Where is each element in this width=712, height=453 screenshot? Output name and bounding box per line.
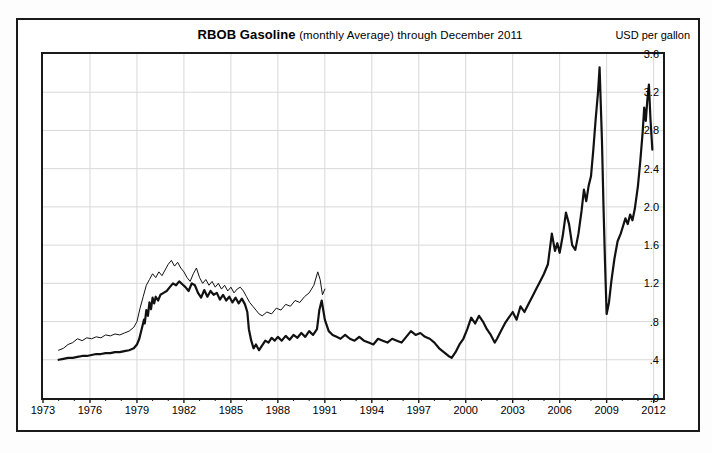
x-tick-label: 1991 — [303, 404, 347, 416]
chart-title-subtitle: (monthly Average) through December 2011 — [299, 29, 522, 41]
y-tick-label: 2.0 — [629, 201, 659, 213]
x-tick-label: 1982 — [162, 404, 206, 416]
data-series-group — [59, 67, 653, 359]
x-tick-label: 2006 — [538, 404, 582, 416]
plot-frame — [41, 52, 665, 400]
chart-title-main: RBOB Gasoline — [197, 27, 295, 42]
y-tick-label: .8 — [629, 316, 659, 328]
x-tick-label: 2003 — [491, 404, 535, 416]
y-tick-label: 3.6 — [629, 48, 659, 60]
y-tick-label: 1.2 — [629, 277, 659, 289]
x-tick-label: 2000 — [444, 404, 488, 416]
x-tick-label: 1979 — [115, 404, 159, 416]
x-tick-label: 2009 — [585, 404, 629, 416]
chart-title: RBOB Gasoline (monthly Average) through … — [150, 27, 570, 42]
x-tick-label: 1988 — [256, 404, 300, 416]
plot-area — [43, 54, 663, 398]
x-tick-label: 1973 — [21, 404, 65, 416]
y-axis-unit-label: USD per gallon — [615, 29, 690, 41]
y-tick-label: 1.6 — [629, 239, 659, 251]
chart-page: RBOB Gasoline (monthly Average) through … — [0, 0, 712, 453]
y-tick-label: .0 — [629, 392, 659, 404]
x-tick-label: 1994 — [350, 404, 394, 416]
chart-svg — [43, 54, 663, 398]
series-line-nominal-price — [59, 67, 653, 359]
x-tick-label: 1985 — [209, 404, 253, 416]
x-tick-label: 1976 — [68, 404, 112, 416]
x-tick-label: 2012 — [632, 404, 676, 416]
y-tick-label: 2.8 — [629, 124, 659, 136]
y-tick-label: .4 — [629, 354, 659, 366]
x-tick-label: 1997 — [397, 404, 441, 416]
y-tick-label: 3.2 — [629, 86, 659, 98]
y-tick-label: 2.4 — [629, 163, 659, 175]
